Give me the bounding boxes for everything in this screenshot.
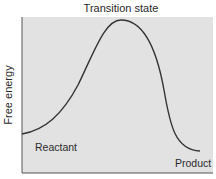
product-label: Product [175, 157, 211, 169]
y-axis-label: Free energy [2, 65, 14, 125]
chart-title: Transition state [84, 2, 159, 14]
reactant-label: Reactant [35, 141, 77, 153]
energy-diagram: Transition state Free energy Reactant Pr… [0, 0, 216, 179]
